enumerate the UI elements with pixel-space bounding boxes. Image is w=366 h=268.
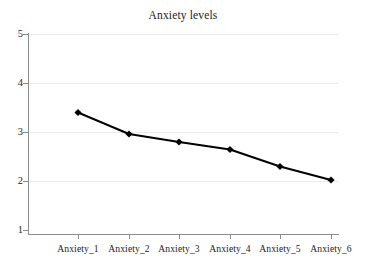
x-tick-label-4: Anxiety_4 [209, 243, 250, 254]
plot-area [28, 34, 338, 234]
chart-title: Anxiety levels [0, 9, 366, 21]
x-tick-4 [230, 234, 231, 239]
y-tick-label-1: 1 [6, 225, 23, 236]
y-tick-label-2: 2 [6, 176, 23, 187]
gridline-3 [28, 132, 338, 133]
y-tick-label-5: 5 [6, 29, 23, 40]
x-tick-5 [280, 234, 281, 239]
y-tick-5 [23, 34, 29, 35]
y-tick-3 [23, 132, 29, 133]
x-tick-3 [179, 234, 180, 239]
x-tick-label-3: Anxiety_3 [158, 243, 199, 254]
x-tick-label-2: Anxiety_2 [108, 243, 149, 254]
x-tick-1 [78, 234, 79, 239]
y-tick-label-3: 3 [6, 127, 23, 138]
x-tick-2 [129, 234, 130, 239]
x-tick-label-5: Anxiety_5 [259, 243, 300, 254]
x-tick-label-6: Anxiety_6 [310, 243, 351, 254]
y-tick-4 [23, 83, 29, 84]
y-tick-2 [23, 181, 29, 182]
chart-container: Anxiety levels 5 4 3 2 1 Anxiety_1 Anxie… [0, 0, 366, 268]
y-axis-line [28, 33, 29, 235]
y-tick-1 [23, 230, 29, 231]
x-tick-label-1: Anxiety_1 [57, 243, 98, 254]
y-tick-label-4: 4 [6, 78, 23, 89]
x-tick-6 [331, 234, 332, 239]
gridline-4 [28, 83, 338, 84]
x-axis-line [28, 234, 339, 235]
gridline-2 [28, 181, 338, 182]
gridline-5 [28, 34, 338, 35]
